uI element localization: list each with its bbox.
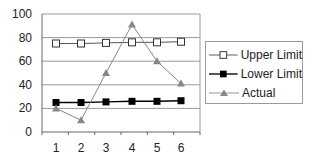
data-point [129, 98, 136, 105]
open-square-marker-icon [209, 49, 238, 61]
data-point [154, 39, 161, 46]
data-point [178, 38, 185, 45]
legend-label: Lower Limit [241, 67, 302, 81]
series-upper-limit [53, 38, 185, 47]
legend-item-actual: Actual [206, 83, 302, 102]
data-point [153, 57, 161, 64]
triangle-marker-icon [209, 87, 239, 99]
y-tick-label: 0 [25, 125, 32, 139]
y-tick-label: 80 [19, 31, 33, 45]
filled-square-marker-icon [209, 68, 238, 80]
gridlines [42, 14, 200, 132]
series-lower-limit [53, 97, 185, 106]
legend-item-lower-limit: Lower Limit [206, 64, 302, 83]
data-point [77, 116, 85, 123]
x-tick-label: 2 [78, 141, 85, 155]
data-point [102, 69, 110, 76]
data-point [53, 40, 60, 47]
x-axis-ticks: 123456 [53, 141, 185, 155]
data-point [103, 39, 110, 46]
data-point [78, 99, 85, 106]
y-tick-label: 20 [19, 101, 33, 115]
data-point [103, 98, 110, 105]
data-point [129, 39, 136, 46]
data-point [128, 21, 136, 28]
legend-label: Upper Limit [241, 48, 302, 62]
x-tick-label: 6 [178, 141, 185, 155]
legend-label: Actual [242, 86, 275, 100]
data-point [78, 40, 85, 47]
y-tick-label: 60 [19, 54, 33, 68]
x-tick-label: 4 [129, 141, 136, 155]
x-tick-label: 1 [53, 141, 60, 155]
data-point [154, 98, 161, 105]
legend-item-upper-limit: Upper Limit [206, 45, 302, 64]
x-tick-label: 3 [103, 141, 110, 155]
series-actual [52, 21, 185, 124]
y-tick-label: 40 [19, 78, 33, 92]
series-lines [52, 21, 185, 124]
x-tick-label: 5 [154, 141, 161, 155]
legend: Upper Limit Lower Limit Actual [205, 41, 303, 104]
data-point [178, 97, 185, 104]
y-axis-ticks: 020406080100 [12, 7, 32, 139]
axes [42, 14, 200, 135]
y-tick-label: 100 [12, 7, 32, 21]
